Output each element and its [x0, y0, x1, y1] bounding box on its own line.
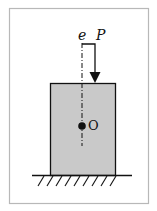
label-eccentricity: e — [78, 27, 86, 43]
label-load: P — [95, 27, 106, 43]
label-centroid: O — [88, 118, 99, 133]
ground-hatch — [38, 176, 116, 186]
load-arrow-icon — [90, 72, 101, 83]
centroid-dot — [78, 122, 86, 130]
eccentric-load-diagram: e P O — [0, 0, 157, 211]
eccentricity-bracket — [82, 44, 95, 72]
